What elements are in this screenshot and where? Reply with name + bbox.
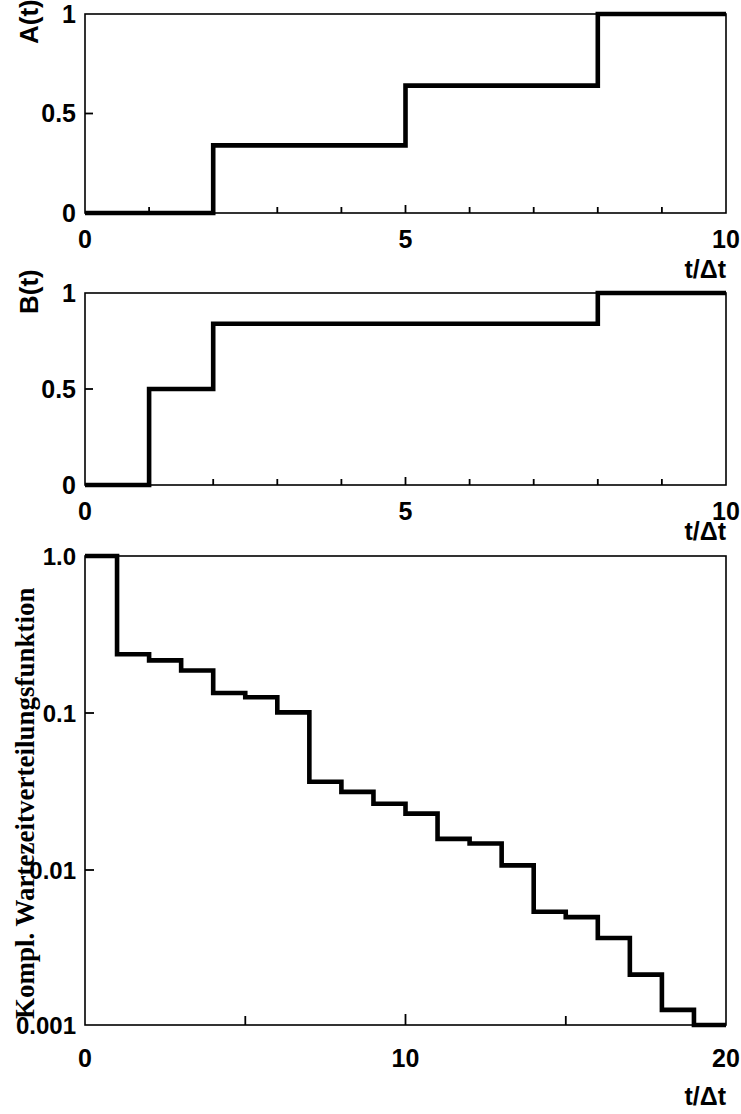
panel-c-ytick-0.1: 0.1 — [43, 700, 76, 727]
panel-b-y-tick-labels: 0 0.5 1 — [41, 279, 76, 499]
panel-c-step-curve — [85, 556, 726, 1025]
chart-panel-a: A(t) 0 0.5 1 — [0, 0, 741, 262]
panel-c-xtick-10: 10 — [392, 1044, 420, 1072]
panel-b-y-axis-title: B(t) — [14, 269, 44, 314]
panel-c-ytick-0.01: 0.01 — [29, 857, 76, 884]
chart-panel-b: B(t) 0 0.5 1 — [0, 262, 741, 524]
panel-a-svg: A(t) 0 0.5 1 — [0, 0, 741, 262]
panel-c-xtick-20: 20 — [712, 1044, 740, 1072]
panel-c-ytick-1.0: 1.0 — [43, 543, 76, 570]
panel-c-svg: Kompl. Wartezeitverteilungsfunktion 1.0 … — [0, 524, 741, 1114]
panel-b-ytick-1: 1 — [62, 279, 76, 307]
panel-b-ylabel-group: B(t) — [14, 269, 44, 314]
panel-b-x-tick-labels: 0 5 10 — [78, 497, 740, 524]
panel-c-x-tick-labels: 0 10 20 — [78, 1044, 740, 1072]
panel-a-ytick-1: 1 — [62, 0, 76, 28]
panel-b-step-curve — [85, 293, 726, 485]
panel-b-xtick-0: 0 — [78, 497, 92, 524]
panel-b-svg: B(t) 0 0.5 1 — [0, 262, 741, 524]
figure-root: A(t) 0 0.5 1 — [0, 0, 741, 1114]
chart-panel-c: Kompl. Wartezeitverteilungsfunktion 1.0 … — [0, 524, 741, 1114]
panel-b-xtick-5: 5 — [399, 497, 413, 524]
panel-a-ytick-0.5: 0.5 — [41, 99, 76, 127]
panel-a-xtick-10: 10 — [712, 225, 740, 253]
panel-a-x-tick-labels: 0 5 10 — [78, 225, 740, 253]
panel-a-y-axis-title: A(t) — [14, 0, 44, 44]
panel-a-ylabel-group: A(t) — [14, 0, 44, 44]
panel-c-ylabel-group: Kompl. Wartezeitverteilungsfunktion — [10, 588, 40, 1020]
panel-c-xtick-0: 0 — [78, 1044, 92, 1072]
panel-b-xtick-10: 10 — [712, 497, 740, 524]
panel-a-xtick-0: 0 — [78, 225, 92, 253]
panel-c-ytick-0.001: 0.001 — [16, 1012, 76, 1039]
panel-c-y-axis-title: Kompl. Wartezeitverteilungsfunktion — [10, 588, 40, 1020]
panel-a-xtick-5: 5 — [399, 225, 413, 253]
panel-a-y-tick-labels: 0 0.5 1 — [41, 0, 76, 227]
panel-a-step-curve — [85, 14, 726, 213]
panel-b-ytick-0.5: 0.5 — [41, 375, 76, 403]
panel-b-ytick-0: 0 — [62, 471, 76, 499]
panel-a-ytick-0: 0 — [62, 199, 76, 227]
